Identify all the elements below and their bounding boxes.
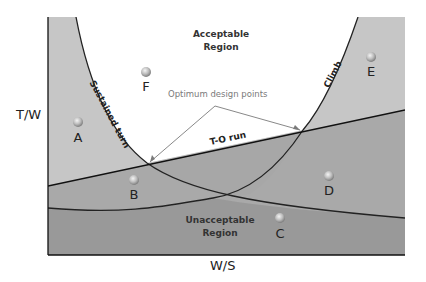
x-axis-label: W/S xyxy=(210,258,236,273)
point-a-label: A xyxy=(74,130,83,145)
point-c-label: C xyxy=(275,226,284,241)
unacceptable-line2: Region xyxy=(180,227,260,240)
point-e-marker xyxy=(366,52,376,62)
point-f-marker xyxy=(141,67,151,77)
point-c-marker xyxy=(275,213,285,223)
point-b-marker xyxy=(129,175,139,185)
point-a-marker xyxy=(73,117,83,127)
unacceptable-line1: Unacceptable xyxy=(180,214,260,227)
acceptable-line1: Acceptable xyxy=(186,28,256,41)
optimum-design-points-label: Optimum design points xyxy=(168,89,267,99)
point-d-label: D xyxy=(324,183,334,198)
y-axis-label: T/W xyxy=(16,107,41,122)
acceptable-line2: Region xyxy=(186,41,256,54)
point-e-label: E xyxy=(367,64,375,79)
acceptable-region-label: Acceptable Region xyxy=(186,28,256,54)
point-d-marker xyxy=(324,171,334,181)
unacceptable-region-label: Unacceptable Region xyxy=(180,214,260,240)
point-b-label: B xyxy=(130,187,139,202)
point-f-label: F xyxy=(142,79,149,94)
